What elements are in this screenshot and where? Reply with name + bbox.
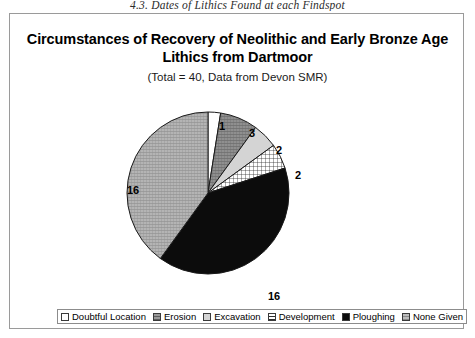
chart-legend: Doubtful LocationErosionExcavationDevelo… <box>57 309 467 324</box>
legend-swatch-icon <box>342 313 350 321</box>
pie-slice-label: 3 <box>249 128 255 139</box>
chart-frame: Circumstances of Recovery of Neolithic a… <box>9 13 464 329</box>
pie-slice-label: 2 <box>276 145 282 156</box>
pie-slice-label: 1 <box>219 121 225 132</box>
running-header: 4.3. Dates of Lithics Found at each Find… <box>0 0 475 11</box>
legend-item[interactable]: Erosion <box>153 312 196 322</box>
pie-slice-label: 2 <box>295 170 301 181</box>
legend-label: Excavation <box>214 312 260 322</box>
legend-swatch-icon <box>153 313 161 321</box>
pie-slice-label: 16 <box>127 185 139 196</box>
legend-swatch-icon <box>268 313 276 321</box>
legend-item[interactable]: Excavation <box>203 312 260 322</box>
pie-svg <box>125 110 291 276</box>
legend-label: Erosion <box>164 312 196 322</box>
legend-item[interactable]: Doubtful Location <box>61 312 146 322</box>
pie-slice-label: 16 <box>268 291 280 302</box>
legend-item[interactable]: None Given <box>402 312 463 322</box>
legend-item[interactable]: Development <box>268 312 335 322</box>
pie-slices <box>127 112 289 274</box>
pie-chart <box>125 110 291 276</box>
legend-swatch-icon <box>402 313 410 321</box>
legend-label: Ploughing <box>353 312 395 322</box>
legend-label: Doubtful Location <box>72 312 146 322</box>
legend-label: None Given <box>413 312 463 322</box>
legend-swatch-icon <box>203 313 211 321</box>
legend-item[interactable]: Ploughing <box>342 312 395 322</box>
plot-area: 13221616 <box>10 14 465 330</box>
legend-label: Development <box>279 312 335 322</box>
legend-swatch-icon <box>61 313 69 321</box>
